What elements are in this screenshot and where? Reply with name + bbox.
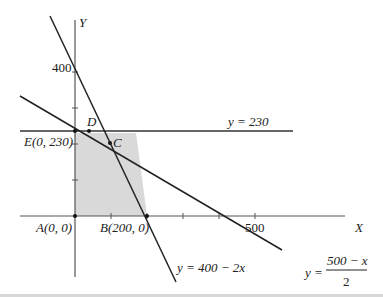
tick-label-500: 500 bbox=[245, 220, 265, 235]
point-label-d: D bbox=[86, 114, 97, 129]
x-axis-label: X bbox=[354, 220, 364, 235]
point-label-c: C bbox=[113, 135, 122, 150]
y-axis-label: Y bbox=[79, 15, 88, 30]
point-label-e: E(0, 230) bbox=[23, 134, 73, 149]
svg-text:y =: y = bbox=[303, 265, 323, 280]
svg-text:500 − x: 500 − x bbox=[327, 253, 368, 268]
equation-y-230: y = 230 bbox=[226, 114, 269, 129]
equation-shallow-line: y = 500 − x 2 bbox=[303, 253, 368, 289]
point-label-b: B(200, 0) bbox=[100, 220, 149, 235]
tick-label-400: 400 bbox=[52, 60, 72, 75]
svg-text:2: 2 bbox=[343, 274, 350, 289]
point-label-a: A(0, 0) bbox=[35, 220, 72, 235]
equation-steep-line: y = 400 − 2x bbox=[175, 260, 245, 275]
lp-diagram: Y X 400 500 A(0, 0) B(200, 0) C D E(0, 2… bbox=[0, 0, 383, 297]
